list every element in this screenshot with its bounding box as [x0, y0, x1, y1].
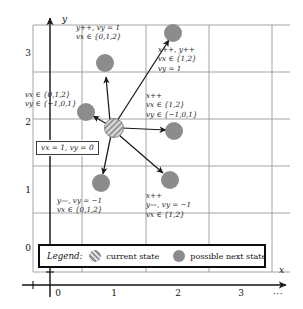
figure-canvas: y++, vy = 1 vx ∈ {0,1,2} x++, y++ vx ∈ {… [0, 0, 303, 309]
x-axis-label: x [279, 265, 284, 275]
legend-current-state-label: current state [106, 252, 159, 261]
arrow-to-right [122, 128, 166, 130]
annotation-down: y—, vy = −1 vx ∈ {0,1,2} [57, 196, 102, 215]
annotation-up-right-line-3: vy = 1 [158, 64, 197, 73]
legend-next-state-swatch-icon [173, 250, 185, 262]
annotation-up: y++, vy = 1 vx ∈ {0,1,2} [76, 23, 121, 42]
annotation-down-line-2: vx ∈ {0,1,2} [57, 205, 102, 214]
arrow-to-up [106, 77, 110, 121]
y-tick-2: 2 [20, 117, 36, 127]
current-state-velocity-box: vx = 1, vy = 0 [36, 141, 99, 155]
annotation-down-right-line-1: x++ [146, 191, 191, 200]
legend-title: Legend: [47, 251, 82, 261]
annotation-up-right: x++, y++ vx ∈ {1,2} vy = 1 [158, 45, 197, 73]
y-tick-0: 0 [20, 243, 36, 253]
annotation-down-right-line-2: y—, vy = −1 [146, 200, 191, 209]
annotation-down-right: x++ y—, vy = −1 vx ∈ {1,2} [146, 191, 191, 219]
annotation-down-right-line-3: vx ∈ {1,2} [146, 210, 191, 219]
annotation-right-line-2: vx ∈ {1,2} [146, 100, 197, 109]
y-axis-label: y [62, 14, 67, 24]
next-state-down-right [161, 171, 179, 189]
annotation-right: x++ vx ∈ {1,2} vy ∈ {−1,0,1} [146, 91, 197, 119]
axis-ticks [33, 272, 54, 289]
annotation-up-right-line-2: vx ∈ {1,2} [158, 54, 197, 63]
annotation-up-right-line-1: x++, y++ [158, 45, 197, 54]
legend: Legend: current state possible next stat… [38, 244, 266, 268]
annotation-down-line-1: y—, vy = −1 [57, 196, 102, 205]
annotation-right-line-3: vy ∈ {−1,0,1} [146, 110, 197, 119]
next-state-up [96, 54, 114, 72]
x-tick-2: 2 [166, 288, 190, 298]
annotation-up-line-2: vx ∈ {0,1,2} [76, 32, 121, 41]
y-tick-1: 1 [20, 185, 36, 195]
legend-current-state-swatch-icon [89, 250, 101, 262]
next-state-down [92, 174, 110, 192]
next-state-up-right [164, 24, 182, 42]
x-axis-overflow-ellipsis: ··· [273, 289, 283, 299]
arrow-to-down [103, 135, 111, 174]
arrow-to-left-stay [93, 116, 107, 124]
annotation-left-stay-line-2: vy ∈ {−1,0,1} [25, 99, 76, 108]
next-state-left-stay [77, 103, 95, 121]
current-state-marker [105, 119, 124, 138]
annotation-up-line-1: y++, vy = 1 [76, 23, 121, 32]
x-tick-1: 1 [102, 288, 126, 298]
next-state-right [165, 122, 183, 140]
annotation-left-stay-line-1: vx ∈ {0,1,2} [25, 90, 76, 99]
annotation-left-stay: vx ∈ {0,1,2} vy ∈ {−1,0,1} [25, 90, 76, 109]
x-tick-3: 3 [229, 288, 253, 298]
legend-next-state-label: possible next state [190, 252, 266, 261]
x-tick-0: 0 [46, 288, 70, 298]
arrow-to-down-right [119, 135, 163, 173]
annotation-right-line-1: x++ [146, 91, 197, 100]
y-tick-3: 3 [20, 48, 36, 58]
